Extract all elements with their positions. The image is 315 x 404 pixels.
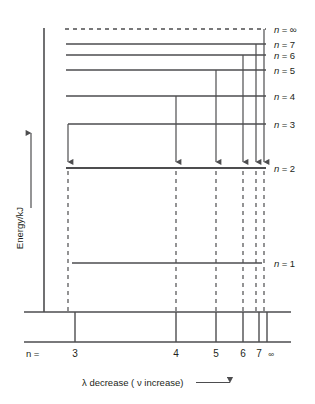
y-axis-title: Energy/kJ bbox=[14, 207, 25, 249]
level-label-n-1-value: 1 bbox=[290, 258, 295, 269]
level-label-n-infinity-symbol: n bbox=[274, 24, 279, 35]
diagram-canvas: Energy/kJ n=∞ n=7 n=6 n=5 bbox=[0, 0, 315, 404]
x-tick-label-6: 6 bbox=[240, 348, 246, 359]
level-label-n-6-symbol: n bbox=[274, 50, 279, 61]
level-label-n-7-symbol: n bbox=[274, 39, 279, 50]
x-tick-label-5: 5 bbox=[213, 348, 219, 359]
x-axis-n-prefix-label: n= bbox=[26, 348, 40, 359]
level-label-n-7: n=7 bbox=[274, 39, 295, 50]
spectrum-band bbox=[24, 312, 291, 342]
level-label-n-1: n=1 bbox=[274, 258, 295, 269]
level-label-n-4-symbol: n bbox=[274, 91, 279, 102]
drop-lines-group bbox=[68, 171, 264, 312]
level-label-n-4-eq: = bbox=[282, 91, 288, 102]
level-label-n-infinity: n=∞ bbox=[274, 24, 297, 35]
level-label-n-1-eq: = bbox=[282, 258, 288, 269]
level-label-n-2-value: 2 bbox=[290, 163, 295, 174]
energy-level-diagram: Energy/kJ n=∞ n=7 n=6 n=5 bbox=[0, 0, 315, 404]
level-label-n-infinity-eq: = bbox=[282, 24, 288, 35]
level-label-n-6-value: 6 bbox=[290, 50, 295, 61]
y-axis-group: Energy/kJ bbox=[14, 28, 44, 312]
level-label-n-infinity-value: ∞ bbox=[290, 24, 297, 35]
level-label-n-4: n=4 bbox=[274, 91, 295, 102]
x-tick-label-4: 4 bbox=[173, 348, 179, 359]
level-label-n-3-value: 3 bbox=[290, 119, 295, 130]
level-labels-group: n=∞ n=7 n=6 n=5 n=4 n=3 n=2 n=1 bbox=[274, 24, 297, 269]
level-label-n-5: n=5 bbox=[274, 65, 295, 76]
level-label-n-7-value: 7 bbox=[290, 39, 295, 50]
x-tick-label-7: 7 bbox=[256, 348, 262, 359]
x-tick-label-infinity: ∞ bbox=[268, 350, 274, 359]
x-axis-caption-group: λ decrease ( ν increase) bbox=[82, 377, 230, 388]
level-label-n-6-eq: = bbox=[282, 50, 288, 61]
level-label-n-5-eq: = bbox=[282, 65, 288, 76]
level-label-n-5-symbol: n bbox=[274, 65, 279, 76]
x-axis-caption-text: λ decrease ( ν increase) bbox=[82, 377, 183, 388]
level-label-n-7-eq: = bbox=[282, 39, 288, 50]
level-label-n-2-symbol: n bbox=[274, 163, 279, 174]
level-label-n-6: n=6 bbox=[274, 50, 295, 61]
level-label-n-2-eq: = bbox=[282, 163, 288, 174]
level-label-n-3-symbol: n bbox=[274, 119, 279, 130]
energy-levels-group bbox=[65, 29, 266, 263]
level-label-n-5-value: 5 bbox=[290, 65, 295, 76]
level-label-n-3: n=3 bbox=[274, 119, 295, 130]
level-label-n-3-eq: = bbox=[282, 119, 288, 130]
x-axis-tick-labels-group: n= 3 4 5 6 7 ∞ bbox=[26, 348, 274, 359]
level-label-n-1-symbol: n bbox=[274, 258, 279, 269]
x-tick-label-3: 3 bbox=[72, 348, 78, 359]
level-label-n-2: n=2 bbox=[274, 163, 295, 174]
level-label-n-4-value: 4 bbox=[290, 91, 295, 102]
